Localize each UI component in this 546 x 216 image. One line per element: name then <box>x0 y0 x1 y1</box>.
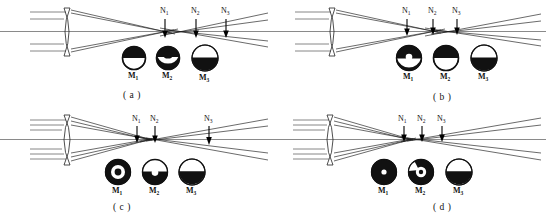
plane-label-n1-d: N1 <box>398 114 407 124</box>
spot-label-m1-b: M1 <box>403 72 414 82</box>
plane-marker-n2 <box>430 19 436 35</box>
optical-aberration-figure: N1 N2 N3 M1 M2 M3 <box>0 0 546 216</box>
plane-marker-n1 <box>404 19 410 36</box>
converging-rays-a <box>71 10 268 52</box>
spot-label-m2-a: M2 <box>162 71 173 81</box>
plane-label-n1-b: N1 <box>402 6 411 16</box>
plane-label-n2-d: N2 <box>417 114 426 124</box>
plane-marker-n1 <box>134 126 140 143</box>
plane-label-n3-d: N3 <box>437 114 446 124</box>
spot-label-m3-a: M3 <box>199 73 210 83</box>
panel-a: N1 N2 N3 M1 M2 M3 <box>0 0 273 108</box>
panel-caption-a: ( a ) <box>123 90 141 100</box>
spot-disc-m1-b <box>397 46 422 71</box>
spot-label-m3-b: M3 <box>478 72 489 82</box>
converging-rays-d <box>334 117 541 161</box>
spot-disc-m3-b <box>471 45 497 71</box>
plane-marker-n3 <box>206 126 212 145</box>
spot-label-m3-d: M3 <box>453 186 464 196</box>
panel-d: N1 N2 N3 M1 M2 <box>273 108 546 216</box>
lens-c <box>64 115 70 165</box>
spot-label-m3-c: M3 <box>186 186 197 196</box>
spot-label-m2-d: M2 <box>415 186 426 196</box>
plane-label-n2-b: N2 <box>428 6 437 16</box>
spot-disc-m2-a <box>157 47 180 70</box>
plane-label-n1-a: N1 <box>160 6 169 16</box>
spot-disc-m3-c <box>179 159 205 185</box>
lens-a <box>64 8 70 56</box>
panel-b: N1 N2 N3 M1 M2 M3 <box>273 0 546 108</box>
plane-label-n2-c: N2 <box>150 114 159 124</box>
panel-caption-b: ( b ) <box>433 92 451 102</box>
plane-label-n3-c: N3 <box>204 114 213 124</box>
spot-disc-m2-c <box>143 159 168 184</box>
spot-disc-m3-a <box>192 45 218 71</box>
spot-label-m1-a: M1 <box>128 71 139 81</box>
plane-markers-c <box>134 126 212 145</box>
spot-disc-m1-c <box>106 160 131 185</box>
spot-disc-m1-d <box>372 160 397 185</box>
panel-caption-d: ( d ) <box>433 202 451 212</box>
panel-caption-c: ( c ) <box>113 202 131 212</box>
spot-label-m1-c: M1 <box>112 186 123 196</box>
converging-rays-b <box>336 10 541 52</box>
spot-disc-m3-d <box>446 159 472 185</box>
plane-label-n2-a: N2 <box>191 6 200 16</box>
spot-label-m2-b: M2 <box>440 72 451 82</box>
plane-label-n3-b: N3 <box>452 6 461 16</box>
panel-c: N1 N2 N3 M1 M2 <box>0 108 273 216</box>
spot-disc-m2-d <box>409 160 434 185</box>
plane-label-n1-c: N1 <box>132 114 141 124</box>
spot-label-m2-c: M2 <box>149 186 160 196</box>
spot-disc-m2-b <box>434 46 459 71</box>
converging-rays-c <box>71 117 268 161</box>
spot-label-m1-d: M1 <box>378 186 389 196</box>
plane-label-n3-a: N3 <box>221 6 230 16</box>
lens-b <box>329 8 335 56</box>
lens-d <box>327 115 333 165</box>
plane-markers-a <box>162 19 229 38</box>
spot-disc-m1-a <box>123 47 146 70</box>
